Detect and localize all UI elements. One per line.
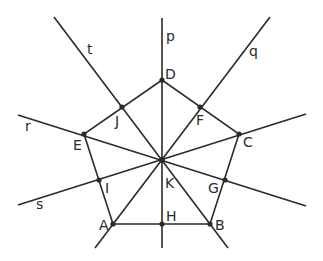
point-f	[197, 104, 202, 109]
point-d	[159, 77, 164, 82]
label-line-q: q	[249, 43, 258, 59]
label-d: D	[165, 66, 176, 82]
label-k: K	[165, 175, 175, 191]
point-j	[119, 104, 124, 109]
label-line-r: r	[25, 118, 31, 134]
label-line-t: t	[87, 41, 93, 57]
point-k	[159, 157, 165, 163]
label-e: E	[73, 137, 82, 153]
label-h: H	[166, 208, 177, 224]
point-g	[222, 177, 227, 182]
label-i: I	[105, 180, 109, 196]
label-c: C	[243, 134, 253, 150]
point-e	[81, 131, 86, 136]
label-f: F	[196, 112, 204, 128]
point-c	[236, 131, 241, 136]
point-i	[96, 177, 101, 182]
label-b: B	[215, 217, 225, 233]
point-h	[159, 221, 164, 226]
label-line-p: p	[166, 28, 175, 44]
label-g: G	[208, 180, 219, 196]
pentagon-diagram: A B C D E F G H I J K p q r s t	[0, 0, 323, 261]
label-j: J	[114, 113, 119, 129]
label-line-s: s	[36, 196, 43, 212]
point-b	[207, 221, 212, 226]
label-a: A	[99, 217, 109, 233]
line-t	[54, 17, 228, 248]
point-a	[110, 221, 115, 226]
line-q	[95, 17, 270, 248]
